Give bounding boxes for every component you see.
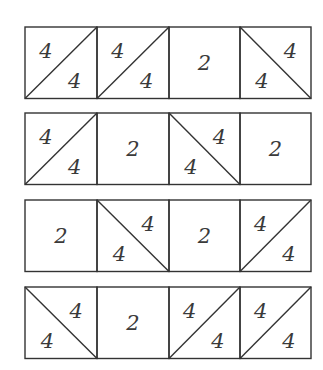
- tile-cell-slash: 44: [240, 287, 311, 359]
- tile-number: 4: [281, 329, 295, 353]
- tile-cell-backslash: 44: [97, 200, 169, 272]
- tile-cell-plain: 2: [240, 113, 311, 185]
- diagonal-line: [97, 200, 169, 272]
- tile-number: 2: [197, 51, 211, 75]
- tile-number: 4: [67, 69, 81, 93]
- tile-number: 4: [182, 299, 196, 323]
- diagonal-line: [25, 27, 97, 99]
- tile-row: 4424444: [25, 287, 311, 359]
- diagonal-line: [169, 113, 240, 185]
- tile-row: 4444244: [25, 27, 311, 99]
- diagonal-line: [169, 287, 240, 359]
- tile-cell-backslash: 44: [169, 113, 240, 185]
- tile-number: 4: [68, 299, 82, 323]
- tile-number: 2: [268, 137, 282, 161]
- tile-grid-diagram: 44442444424422442444424444: [0, 0, 323, 370]
- tile-number: 4: [110, 39, 124, 63]
- tile-cell-slash: 44: [97, 27, 169, 99]
- diagonal-line: [25, 287, 97, 359]
- tile-number: 2: [197, 224, 211, 248]
- tile-number: 4: [183, 155, 197, 179]
- tile-number: 4: [254, 69, 268, 93]
- tile-number: 4: [281, 242, 295, 266]
- diagonal-line: [240, 200, 311, 272]
- tile-number: 4: [253, 212, 267, 236]
- tile-cell-plain: 2: [97, 113, 169, 185]
- tile-row: 244244: [25, 200, 311, 272]
- tile-cell-plain: 2: [169, 27, 240, 99]
- tile-number: 4: [40, 329, 54, 353]
- tile-number: 2: [125, 137, 139, 161]
- tile-cell-slash: 44: [240, 200, 311, 272]
- tile-number: 4: [67, 155, 81, 179]
- tile-cell-plain: 2: [25, 200, 97, 272]
- tile-number: 4: [112, 242, 126, 266]
- tile-cell-slash: 44: [25, 113, 97, 185]
- tile-number: 4: [283, 39, 297, 63]
- diagonal-line: [25, 113, 97, 185]
- tile-row: 442442: [25, 113, 311, 185]
- tile-number: 2: [125, 311, 139, 335]
- diagonal-line: [97, 27, 169, 99]
- tile-number: 4: [210, 329, 224, 353]
- tile-cell-plain: 2: [97, 287, 169, 359]
- diagonal-line: [240, 287, 311, 359]
- tile-number: 4: [212, 125, 226, 149]
- tile-cell-slash: 44: [169, 287, 240, 359]
- tile-number: 4: [140, 212, 154, 236]
- tile-number: 4: [139, 69, 153, 93]
- tile-cell-backslash: 44: [25, 287, 97, 359]
- tile-number: 4: [253, 299, 267, 323]
- diagonal-line: [240, 27, 311, 99]
- tile-cell-backslash: 44: [240, 27, 311, 99]
- tile-number: 4: [38, 125, 52, 149]
- tile-cell-slash: 44: [25, 27, 97, 99]
- tile-cell-plain: 2: [169, 200, 240, 272]
- tile-number: 2: [53, 224, 67, 248]
- tile-number: 4: [38, 39, 52, 63]
